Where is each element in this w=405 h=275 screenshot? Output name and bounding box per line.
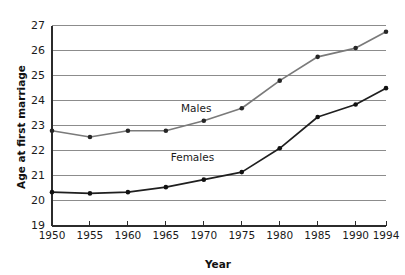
data-point-females-1994 <box>384 86 389 91</box>
x-tick-label-1994: 1994 <box>373 229 400 241</box>
data-point-females-1975 <box>239 170 244 175</box>
y-tick-label-21: 21 <box>31 169 45 182</box>
x-tick-labels-group: 1950195519601965197019751980198519901994 <box>39 229 400 241</box>
data-point-males-1970 <box>202 118 207 123</box>
series-line-males <box>52 32 386 137</box>
data-point-females-1970 <box>202 177 207 182</box>
y-tick-label-20: 20 <box>31 194 45 207</box>
data-point-males-1950 <box>50 128 55 133</box>
x-tick-label-1990: 1990 <box>342 229 369 241</box>
x-axis-title: Year <box>204 258 232 270</box>
x-tick-label-1980: 1980 <box>266 229 293 241</box>
data-point-males-1994 <box>384 29 389 34</box>
data-point-males-1990 <box>353 46 358 51</box>
y-tick-label-25: 25 <box>31 69 45 82</box>
data-point-females-1985 <box>315 115 320 120</box>
data-point-females-1980 <box>277 146 282 151</box>
y-tick-label-27: 27 <box>31 19 45 32</box>
series-label-males: Males <box>181 102 211 114</box>
data-point-males-1955 <box>88 135 93 140</box>
y-tick-label-24: 24 <box>31 94 45 107</box>
data-point-females-1960 <box>126 190 131 195</box>
data-point-males-1960 <box>126 128 131 133</box>
x-tick-label-1965: 1965 <box>152 229 179 241</box>
data-point-males-1985 <box>315 55 320 60</box>
data-point-females-1990 <box>353 102 358 107</box>
data-point-males-1965 <box>164 128 169 133</box>
x-tick-marks-group <box>52 221 386 226</box>
y-tick-label-23: 23 <box>31 119 45 132</box>
x-tick-label-1960: 1960 <box>115 229 142 241</box>
y-tick-label-22: 22 <box>31 144 45 157</box>
x-tick-label-1950: 1950 <box>39 229 66 241</box>
data-point-females-1965 <box>164 185 169 190</box>
series-line-females <box>52 88 386 193</box>
data-point-males-1975 <box>239 106 244 111</box>
x-tick-label-1975: 1975 <box>228 229 255 241</box>
x-tick-label-1955: 1955 <box>77 229 104 241</box>
data-point-females-1950 <box>50 190 55 195</box>
series-label-females: Females <box>171 151 214 163</box>
y-tick-labels-group: 192021222324252627 <box>31 19 45 233</box>
x-tick-label-1970: 1970 <box>190 229 217 241</box>
chart-figure: 192021222324252627 195019551960196519701… <box>0 0 405 275</box>
series-inline-labels-group: MalesFemales <box>171 102 214 163</box>
data-point-males-1980 <box>277 78 282 83</box>
data-series-group <box>50 29 389 195</box>
y-axis-title: Age at first marriage <box>15 65 27 189</box>
line-chart: 192021222324252627 195019551960196519701… <box>0 0 405 275</box>
x-tick-label-1985: 1985 <box>304 229 331 241</box>
data-point-females-1955 <box>88 191 93 196</box>
y-tick-label-26: 26 <box>31 44 45 57</box>
